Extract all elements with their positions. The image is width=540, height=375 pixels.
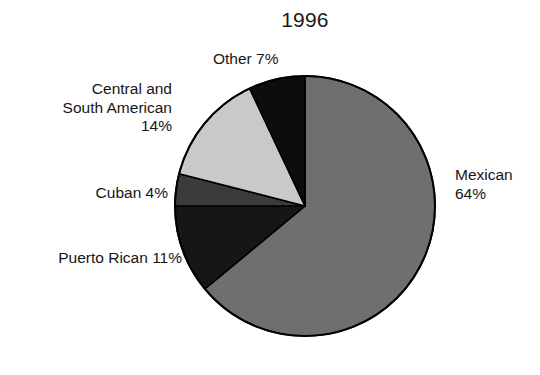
pie-label-cuban: Cuban 4% <box>18 184 168 203</box>
pie-label-mexican: Mexican 64% <box>455 166 513 203</box>
pie-chart-figure: 1996 Other 7% Central and South American… <box>0 0 540 375</box>
pie-label-puerto-rican: Puerto Rican 11% <box>10 249 182 268</box>
pie-label-other: Other 7% <box>213 50 278 69</box>
pie-label-central-south-american: Central and South American 14% <box>18 80 172 136</box>
pie-slices <box>175 76 435 336</box>
